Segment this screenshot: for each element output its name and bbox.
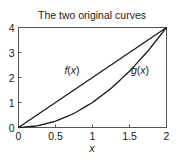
y-tick-label: 3 <box>9 47 15 59</box>
x-tick-label: 1 <box>90 130 96 142</box>
x-axis-label: x <box>88 142 95 154</box>
x-tick-label: 0.5 <box>48 130 63 142</box>
curves <box>19 28 167 128</box>
y-tick-label: 1 <box>9 97 15 109</box>
y-axis-ticks: 01234 <box>9 22 22 134</box>
curve-labels: f(x)g(x) <box>64 64 149 76</box>
curve-label-f: f(x) <box>64 64 79 76</box>
chart: The two original curves 01234 00.511.52 … <box>0 0 181 161</box>
y-tick-label: 0 <box>9 122 15 134</box>
curve-f <box>19 28 167 128</box>
x-tick-label: 0 <box>16 130 22 142</box>
chart-title: The two original curves <box>38 9 146 21</box>
y-tick-label: 4 <box>9 22 15 34</box>
x-tick-label: 1.5 <box>122 130 137 142</box>
y-tick-label: 2 <box>9 72 15 84</box>
curve-label-g: g(x) <box>131 64 149 76</box>
x-tick-label: 2 <box>164 130 170 142</box>
